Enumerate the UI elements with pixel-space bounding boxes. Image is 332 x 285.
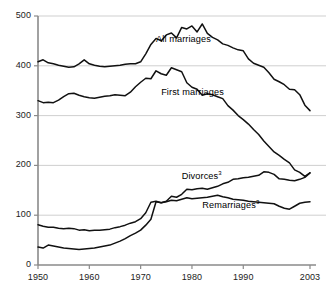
gridlines	[34, 16, 326, 265]
series-label-footnote-marker: 3	[256, 199, 259, 205]
y-axis-tick-label: 400	[0, 60, 31, 70]
series-lines	[38, 24, 310, 250]
series-line-first-marriages	[38, 68, 310, 177]
chart-container: 0100200300400500 19501960197019801990200…	[0, 0, 332, 285]
series-label-all-marriages: All marriages	[156, 34, 211, 44]
series-label-text: All marriages	[156, 34, 211, 44]
x-axis-tick-label: 1980	[170, 272, 214, 282]
series-label-text: First marriages	[161, 87, 224, 97]
y-axis-tick-label: 100	[0, 209, 31, 219]
series-label-text: Remarriages	[202, 200, 256, 210]
series-label-text: Divorces	[182, 171, 219, 181]
y-axis-tick-label: 0	[0, 259, 31, 269]
x-axis-tick-label: 1960	[67, 272, 111, 282]
x-axis-tick-label: 1950	[16, 272, 60, 282]
y-axis-tick-label: 300	[0, 110, 31, 120]
series-label-footnote-marker: 3	[218, 170, 221, 176]
series-label-divorces: Divorces3	[182, 171, 222, 181]
series-line-remarriages	[38, 195, 310, 249]
y-axis-tick-label: 200	[0, 159, 31, 169]
series-label-first-marriages: First marriages	[161, 87, 224, 97]
y-axis-tick-label: 500	[0, 10, 31, 20]
x-axis-tick-label: 2003	[288, 272, 332, 282]
x-axis-tick-label: 1990	[221, 272, 265, 282]
x-axis-tick-label: 1970	[119, 272, 163, 282]
series-label-remarriages: Remarriages3	[202, 200, 259, 210]
